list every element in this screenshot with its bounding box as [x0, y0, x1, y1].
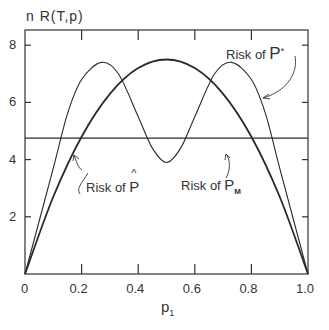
data-curves: [25, 60, 308, 275]
y-axis-label: n R(T,p): [26, 8, 84, 24]
annotation-text: Risk of: [86, 180, 129, 195]
series-risk-pstar: [25, 62, 308, 274]
annotation-symbol: P: [224, 176, 234, 193]
pm-pointer: [226, 154, 229, 178]
x-tick-label: 0.4: [126, 281, 144, 296]
annotation-risk-pstar: Risk of P*: [226, 44, 284, 64]
annotation-sup: *: [281, 46, 285, 56]
plot-frame: [25, 30, 308, 274]
annotation-risk-phat: Risk of ^P: [86, 178, 139, 195]
annotation-symbol: P: [129, 178, 139, 195]
y-tick-label: 8: [9, 37, 16, 52]
series-risk-phat: [25, 60, 308, 275]
annotation-risk-pm: Risk of PM: [181, 176, 241, 196]
x-tick-label: 0.2: [70, 281, 88, 296]
x-tick-label: 0.6: [183, 281, 201, 296]
y-tick-label: 6: [9, 94, 16, 109]
hat-accent: ^: [131, 167, 136, 179]
x-tick-label: 1.0: [296, 281, 314, 296]
phat-pointer-top: [74, 155, 82, 170]
x-tick-label: 0.8: [239, 281, 257, 296]
axis-ticks: [25, 30, 308, 274]
annotation-symbol: P: [269, 44, 280, 63]
x-axis-label: p1: [161, 298, 174, 318]
annotation-text: Risk of: [226, 47, 269, 62]
annotation-sub: M: [234, 187, 241, 196]
x-tick-label: 0: [21, 281, 28, 296]
x-axis-label-sub: 1: [169, 308, 174, 318]
y-tick-label: 4: [9, 152, 16, 167]
y-tick-label: 2: [9, 209, 16, 224]
annotation-text: Risk of: [181, 178, 224, 193]
